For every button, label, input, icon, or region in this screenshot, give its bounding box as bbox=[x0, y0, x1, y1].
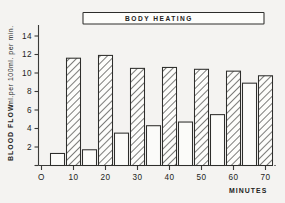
y-tick-label-4: 4 bbox=[27, 124, 32, 133]
bar-hatched-60 bbox=[227, 71, 241, 165]
bar-hatched-10 bbox=[67, 58, 81, 165]
bar-hatched-70 bbox=[259, 76, 273, 166]
bar-chart: BODY HEATING 2 4 6 8 10 12 14 bbox=[0, 0, 285, 203]
x-tick-label-40: 40 bbox=[165, 173, 175, 182]
y-tick-label-2: 2 bbox=[27, 143, 32, 152]
y-tick-label-10: 10 bbox=[22, 69, 32, 78]
bar-hatched-40 bbox=[163, 67, 177, 165]
x-tick-label-20: 20 bbox=[101, 173, 111, 182]
y-tick-label-8: 8 bbox=[27, 87, 32, 96]
bar-hatched-50 bbox=[195, 69, 209, 165]
bar-open-5 bbox=[51, 153, 65, 165]
bar-hatched-20 bbox=[99, 55, 113, 165]
y-tick-label-12: 12 bbox=[22, 50, 32, 59]
x-tick-label-50: 50 bbox=[197, 173, 207, 182]
x-tick-label-70: 70 bbox=[261, 173, 271, 182]
x-tick-label-10: 10 bbox=[69, 173, 79, 182]
y-axis-title-group: BLOOD FLOW ml.per 100ml. per min. bbox=[7, 25, 15, 161]
chart-title: BODY HEATING bbox=[125, 15, 193, 22]
y-axis-title-units: ml.per 100ml. per min. bbox=[7, 25, 15, 106]
x-tick-label-60: 60 bbox=[229, 173, 239, 182]
x-tick-label-30: 30 bbox=[133, 173, 143, 182]
bar-open-55 bbox=[211, 115, 225, 166]
bar-open-25 bbox=[115, 133, 129, 165]
y-tick-label-6: 6 bbox=[27, 106, 32, 115]
y-axis-title-main: BLOOD FLOW bbox=[7, 103, 14, 161]
bar-open-45 bbox=[179, 122, 193, 165]
bar-open-15 bbox=[83, 150, 97, 166]
y-tick-label-14: 14 bbox=[22, 32, 32, 41]
x-tick-label-0: O bbox=[38, 173, 45, 182]
x-axis-title: MINUTES bbox=[229, 187, 267, 194]
body-heating-annotation: BODY HEATING bbox=[83, 13, 264, 25]
figure-panel: BODY HEATING 2 4 6 8 10 12 14 bbox=[0, 0, 285, 203]
bar-hatched-30 bbox=[131, 68, 145, 165]
bar-open-35 bbox=[147, 126, 161, 166]
bar-open-65 bbox=[243, 83, 257, 165]
